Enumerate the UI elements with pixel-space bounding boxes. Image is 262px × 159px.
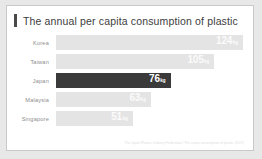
bar-unit-korea: kg: [233, 40, 238, 45]
page-title: The annual per capita consumption of pla…: [23, 15, 238, 27]
bar-row: Malaysia 63kg: [7, 92, 243, 107]
bar-unit-malaysia: kg: [141, 97, 146, 102]
title-accent-bar: [14, 14, 17, 27]
bar-japan[interactable]: 76kg: [56, 73, 171, 88]
bar-korea[interactable]: 124kg: [56, 35, 243, 50]
bar-row: Japan 76kg: [7, 73, 243, 88]
bar-track: 76kg: [56, 73, 243, 88]
bar-row: Singapore 51kg: [7, 111, 243, 126]
category-label-malaysia: Malaysia: [7, 97, 56, 103]
category-label-korea: Korea: [7, 40, 56, 46]
bar-value-japan: 76: [149, 73, 160, 84]
bar-track: 124kg: [56, 35, 243, 50]
bar-malaysia[interactable]: 63kg: [56, 92, 151, 107]
chart-card: The annual per capita consumption of pla…: [6, 5, 254, 151]
bar-unit-singapore: kg: [122, 116, 127, 121]
bar-singapore[interactable]: 51kg: [56, 111, 133, 126]
category-label-singapore: Singapore: [7, 116, 56, 122]
chart-title-row: The annual per capita consumption of pla…: [14, 14, 253, 27]
bar-track: 63kg: [56, 92, 243, 107]
bar-value-taiwan: 105: [187, 54, 203, 65]
bar-track: 105kg: [56, 54, 243, 69]
category-label-taiwan: Taiwan: [7, 59, 56, 65]
category-label-japan: Japan: [7, 78, 56, 84]
bar-unit-taiwan: kg: [204, 59, 209, 64]
bar-value-malaysia: 63: [129, 92, 140, 103]
bar-row: Korea 124kg: [7, 35, 243, 50]
bar-track: 51kg: [56, 111, 243, 126]
bar-taiwan[interactable]: 105kg: [56, 54, 214, 69]
bar-row: Taiwan 105kg: [7, 54, 243, 69]
bar-value-korea: 124: [216, 35, 232, 46]
bar-value-singapore: 51: [111, 111, 122, 122]
bar-chart-plot-area: Korea 124kg Taiwan 105kg Japan 76kg: [7, 35, 253, 126]
bar-unit-japan: kg: [160, 78, 165, 83]
source-footnote: The Japan Plastics Industry Federation /…: [124, 141, 244, 145]
